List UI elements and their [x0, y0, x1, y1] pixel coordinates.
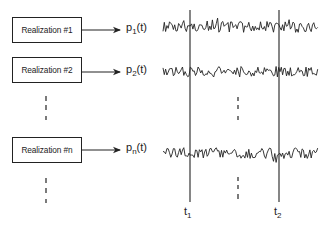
realization-label-1: Realization #1 — [21, 25, 72, 35]
realization-box-1: Realization #1 — [12, 17, 82, 43]
ensemble-diagram: Realization #1 Realization #2 Realizatio… — [0, 0, 330, 228]
realization-label-2: Realization #2 — [21, 65, 72, 75]
realization-label-n: Realization #n — [21, 145, 72, 155]
process-label-1: p1(t) — [126, 21, 147, 36]
signal-waveform-1 — [163, 18, 318, 32]
signal-waveform-n — [163, 148, 318, 163]
time-label-t2: t2 — [274, 205, 282, 220]
process-label-n: pn(t) — [126, 141, 147, 156]
realization-box-2: Realization #2 — [12, 57, 82, 83]
process-label-2: p2(t) — [126, 63, 147, 78]
signal-waveform-2 — [163, 67, 318, 78]
realization-box-n: Realization #n — [12, 137, 82, 163]
time-label-t1: t1 — [184, 205, 192, 220]
